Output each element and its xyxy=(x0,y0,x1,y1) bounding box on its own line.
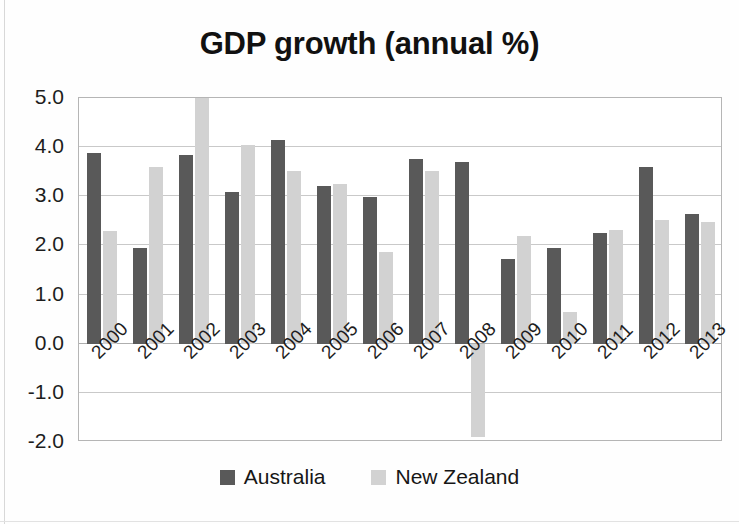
bar xyxy=(195,98,209,344)
y-axis-tick-labels: 5.04.03.02.01.00.0-1.0-2.0 xyxy=(0,97,70,441)
bar xyxy=(501,259,515,344)
gridline xyxy=(79,244,721,245)
y-axis-tick-label: -1.0 xyxy=(28,380,64,404)
bar xyxy=(685,214,699,343)
bar xyxy=(271,140,285,344)
bar xyxy=(179,155,193,344)
bar xyxy=(133,248,147,343)
y-axis-tick-label: -2.0 xyxy=(28,429,64,453)
bar xyxy=(425,171,439,343)
bar xyxy=(317,186,331,343)
legend-item: New Zealand xyxy=(371,465,519,489)
y-axis-tick-label: 0.0 xyxy=(35,331,64,355)
x-axis-tick-labels: 2000200120022003200420052006200720082009… xyxy=(78,348,722,458)
y-axis-tick-label: 2.0 xyxy=(35,232,64,256)
chart-title: GDP growth (annual %) xyxy=(0,26,739,62)
bar xyxy=(593,233,607,344)
y-axis-tick-label: 1.0 xyxy=(35,282,64,306)
y-axis-tick-label: 4.0 xyxy=(35,134,64,158)
bar xyxy=(547,248,561,344)
y-axis-tick-label: 5.0 xyxy=(35,85,64,109)
legend-label: Australia xyxy=(244,465,326,489)
bar xyxy=(225,192,239,343)
gridline xyxy=(79,195,721,196)
legend-label: New Zealand xyxy=(395,465,519,489)
bar xyxy=(149,167,163,344)
bar xyxy=(287,171,301,344)
bar xyxy=(241,145,255,344)
gridline xyxy=(79,146,721,147)
gdp-growth-bar-chart: GDP growth (annual %) 5.04.03.02.01.00.0… xyxy=(0,0,739,524)
legend-swatch-icon xyxy=(220,470,235,485)
bar xyxy=(639,167,653,344)
bar xyxy=(87,153,101,344)
y-axis-tick-label: 3.0 xyxy=(35,183,64,207)
bar xyxy=(363,197,377,344)
legend-swatch-icon xyxy=(371,470,386,485)
legend-item: Australia xyxy=(220,465,326,489)
bar xyxy=(455,162,469,344)
gridline xyxy=(79,294,721,295)
chart-legend: AustraliaNew Zealand xyxy=(0,465,739,489)
bar xyxy=(409,159,423,344)
